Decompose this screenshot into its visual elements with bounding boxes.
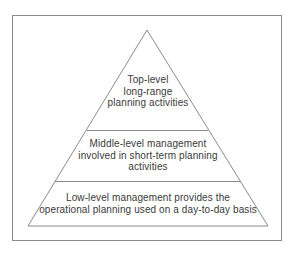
pyramid-shape <box>0 0 296 253</box>
level-middle-line-1: Middle-level management <box>0 138 296 150</box>
level-top-line-1: Top-level <box>0 74 296 86</box>
level-top-line-2: long-range <box>0 86 296 98</box>
level-middle-label: Middle-level management involved in shor… <box>0 138 296 173</box>
level-top-line-3: planning activities <box>0 97 296 109</box>
level-middle-line-2: involved in short-term planning <box>0 150 296 162</box>
level-low-label: Low-level management provides the operat… <box>0 192 296 215</box>
level-middle-line-3: activities <box>0 161 296 173</box>
level-low-line-1: Low-level management provides the <box>0 192 296 204</box>
level-top-label: Top-level long-range planning activities <box>0 74 296 109</box>
level-low-line-2: operational planning used on a day-to-da… <box>0 204 296 216</box>
